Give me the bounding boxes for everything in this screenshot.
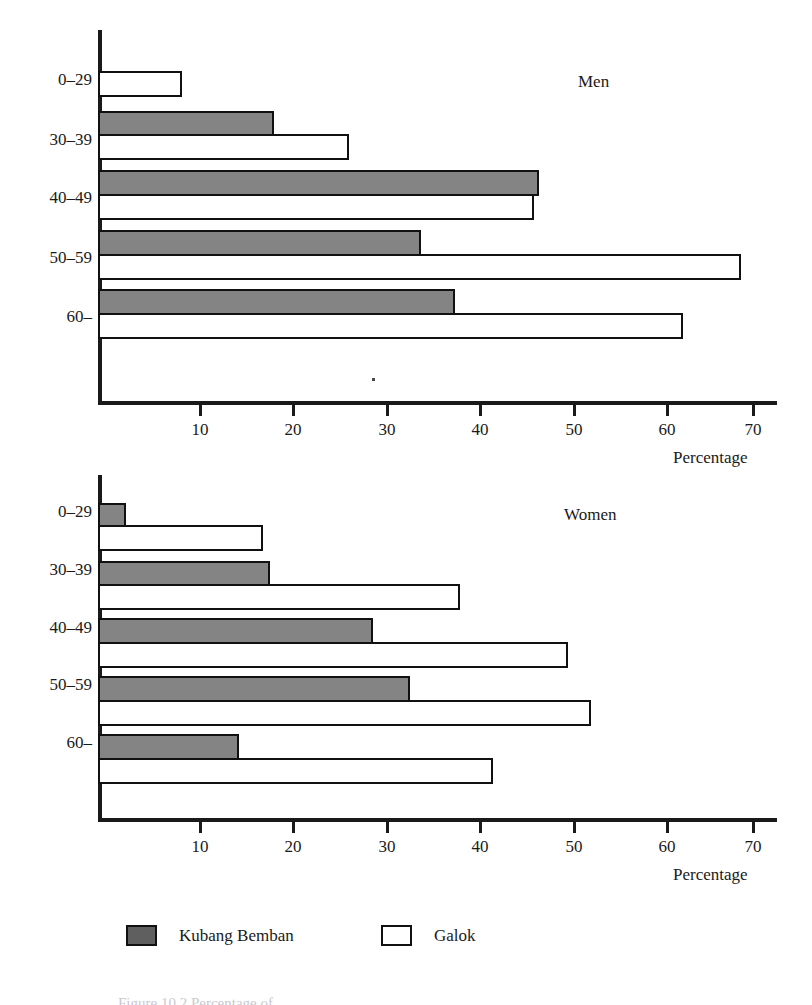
x-tick-70-men (752, 405, 755, 416)
x-tick-30-women (386, 822, 389, 833)
bar-women-30-39-galok (98, 584, 460, 610)
print-artifact-dot (372, 378, 375, 381)
panel-title-women: Women (564, 505, 616, 525)
chart-legend: Kubang Bemban Galok (0, 925, 812, 955)
x-axis-title-men: Percentage (673, 448, 748, 468)
bar-men-50-59-kubang-bemban (98, 230, 421, 256)
x-tick-label-40-women: 40 (460, 837, 500, 857)
y-category-label-50-59-women: 50–59 (10, 675, 92, 695)
x-tick-20-women (292, 822, 295, 833)
bar-men-60-galok (98, 313, 683, 339)
y-category-label-60-women: 60– (10, 733, 92, 753)
y-category-label-40-49-women: 40–49 (10, 618, 92, 638)
y-category-label-30-39-men: 30–39 (10, 130, 92, 150)
x-tick-label-20-women: 20 (273, 837, 313, 857)
x-tick-label-10-men: 10 (180, 420, 220, 440)
x-tick-60-women (666, 822, 669, 833)
x-tick-label-20-men: 20 (273, 420, 313, 440)
bar-women-0-29-galok (98, 525, 263, 551)
bar-men-0-29-galok (98, 71, 182, 97)
x-tick-label-40-men: 40 (460, 420, 500, 440)
x-tick-40-women (479, 822, 482, 833)
legend-label-galok: Galok (434, 926, 476, 946)
x-tick-label-60-men: 60 (647, 420, 687, 440)
figure-container: 10 20 30 40 50 60 70 Percentage Men 0–29… (0, 0, 812, 1005)
legend-swatch-kubang-bemban-icon (126, 925, 157, 946)
legend-item-galok: Galok (381, 925, 476, 946)
y-category-label-60-men: 60– (10, 307, 92, 327)
bar-men-40-49-kubang-bemban (98, 170, 539, 196)
x-tick-40-men (479, 405, 482, 416)
plot-area-men: 10 20 30 40 50 60 70 Percentage Men 0–29… (0, 30, 812, 475)
bar-men-50-59-galok (98, 254, 741, 280)
x-tick-10-men (199, 405, 202, 416)
bar-women-60-kubang-bemban (98, 734, 239, 760)
bar-women-30-39-kubang-bemban (98, 561, 270, 586)
bar-men-30-39-galok (98, 134, 349, 160)
bar-women-40-49-kubang-bemban (98, 618, 373, 644)
x-axis-title-women: Percentage (673, 865, 748, 885)
bar-women-40-49-galok (98, 642, 568, 668)
panel-title-men: Men (578, 72, 609, 92)
y-category-label-0-29-women: 0–29 (10, 502, 92, 522)
x-tick-label-30-women: 30 (367, 837, 407, 857)
chart-panel-men: 10 20 30 40 50 60 70 Percentage Men 0–29… (0, 30, 812, 475)
x-tick-label-10-women: 10 (180, 837, 220, 857)
bar-women-50-59-kubang-bemban (98, 676, 410, 702)
x-tick-label-60-women: 60 (647, 837, 687, 857)
plot-area-women: 10 20 30 40 50 60 70 Percentage Women 0–… (0, 475, 812, 895)
figure-caption: Figure 10.2 Percentage of ... (118, 995, 778, 1005)
x-tick-10-women (199, 822, 202, 833)
x-tick-label-50-men: 50 (554, 420, 594, 440)
bar-men-40-49-galok (98, 194, 534, 220)
chart-panel-women: 10 20 30 40 50 60 70 Percentage Women 0–… (0, 475, 812, 895)
x-tick-50-women (573, 822, 576, 833)
x-tick-70-women (752, 822, 755, 833)
x-tick-30-men (386, 405, 389, 416)
y-category-label-0-29-men: 0–29 (10, 70, 92, 90)
bar-women-0-29-kubang-bemban (98, 503, 126, 527)
x-tick-label-70-men: 70 (733, 420, 773, 440)
x-tick-50-men (573, 405, 576, 416)
bar-women-50-59-galok (98, 700, 591, 726)
bar-men-60-kubang-bemban (98, 289, 455, 315)
legend-label-kubang-bemban: Kubang Bemban (179, 926, 294, 946)
legend-item-kubang-bemban: Kubang Bemban (126, 925, 294, 946)
y-category-label-30-39-women: 30–39 (10, 560, 92, 580)
x-tick-20-men (292, 405, 295, 416)
y-category-label-50-59-men: 50–59 (10, 248, 92, 268)
bar-women-60-galok (98, 758, 493, 784)
bar-men-30-39-kubang-bemban (98, 111, 274, 136)
x-tick-60-men (666, 405, 669, 416)
x-tick-label-70-women: 70 (733, 837, 773, 857)
legend-swatch-galok-icon (381, 925, 412, 946)
x-tick-label-30-men: 30 (367, 420, 407, 440)
x-tick-label-50-women: 50 (554, 837, 594, 857)
y-category-label-40-49-men: 40–49 (10, 188, 92, 208)
